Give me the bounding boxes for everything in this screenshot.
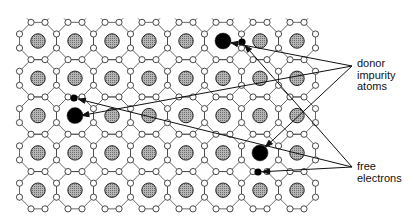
valence-electron-icon [79, 19, 85, 25]
valence-electron-icon [312, 82, 318, 88]
valence-electron-icon [16, 106, 22, 112]
host-atom-icon [290, 183, 304, 197]
valence-electron-icon [287, 131, 293, 137]
valence-electron-icon [116, 206, 122, 212]
valence-electron-icon [42, 19, 48, 25]
valence-electron-icon [139, 94, 145, 100]
valence-electron-icon [250, 94, 256, 100]
valence-electron-icon [238, 68, 244, 74]
valence-electron-icon [301, 206, 307, 212]
valence-electron-icon [116, 94, 122, 100]
valence-electron-icon [201, 31, 207, 37]
valence-electron-icon [16, 143, 22, 149]
valence-electron-icon [190, 57, 196, 63]
valence-electron-icon [127, 45, 133, 51]
valence-electron-icon [79, 131, 85, 137]
valence-electron-icon [164, 180, 170, 186]
valence-electron-icon [90, 68, 96, 74]
valence-electron-icon [275, 45, 281, 51]
valence-electron-icon [250, 206, 256, 212]
valence-electron-icon [53, 120, 59, 126]
valence-electron-icon [164, 106, 170, 112]
valence-electron-icon [238, 120, 244, 126]
host-atom-icon [179, 108, 193, 122]
valence-electron-icon [312, 143, 318, 149]
valence-electron-icon [127, 180, 133, 186]
valence-electron-icon [312, 106, 318, 112]
valence-electron-icon [238, 45, 244, 51]
arrowhead-icon [78, 98, 85, 103]
host-atom-icon [68, 183, 82, 197]
valence-electron-icon [275, 194, 281, 200]
valence-electron-icon [201, 120, 207, 126]
valence-electron-icon [16, 31, 22, 37]
valence-electron-icon [201, 82, 207, 88]
host-atom-icon [31, 183, 45, 197]
valence-electron-icon [164, 68, 170, 74]
host-atom-icon [179, 146, 193, 160]
valence-electron-icon [65, 94, 71, 100]
valence-electron-icon [227, 57, 233, 63]
donor-impurity-atom-icon [215, 33, 231, 49]
valence-electron-icon [164, 45, 170, 51]
valence-electron-icon [16, 194, 22, 200]
valence-electron-icon [53, 180, 59, 186]
host-atom-icon [142, 146, 156, 160]
valence-electron-icon [90, 45, 96, 51]
valence-electron-icon [301, 19, 307, 25]
valence-electron-icon [190, 168, 196, 174]
valence-electron-icon [90, 106, 96, 112]
valence-electron-icon [227, 94, 233, 100]
valence-electron-icon [65, 206, 71, 212]
valence-electron-icon [264, 206, 270, 212]
valence-electron-icon [42, 131, 48, 137]
valence-electron-icon [116, 131, 122, 137]
valence-electron-icon [90, 120, 96, 126]
host-atom-icon [105, 71, 119, 85]
valence-electron-icon [287, 168, 293, 174]
valence-electron-icon [127, 120, 133, 126]
valence-electron-icon [213, 19, 219, 25]
valence-electron-icon [116, 168, 122, 174]
valence-electron-icon [312, 31, 318, 37]
label-line: free [357, 161, 402, 173]
valence-electron-icon [201, 180, 207, 186]
valence-electron-icon [190, 131, 196, 137]
host-atom-icon [290, 34, 304, 48]
valence-electron-icon [238, 180, 244, 186]
valence-electron-icon [238, 194, 244, 200]
valence-electron-icon [176, 206, 182, 212]
valence-electron-icon [201, 68, 207, 74]
label-line: atoms [357, 81, 396, 93]
host-atom-icon [216, 183, 230, 197]
valence-electron-icon [139, 168, 145, 174]
free-electron-icon [70, 94, 77, 101]
host-atom-icon [253, 34, 267, 48]
valence-electron-icon [42, 206, 48, 212]
valence-electron-icon [164, 143, 170, 149]
valence-electron-icon [53, 68, 59, 74]
host-atom-icon [216, 146, 230, 160]
valence-electron-icon [90, 180, 96, 186]
valence-electron-icon [102, 168, 108, 174]
valence-electron-icon [287, 57, 293, 63]
valence-electron-icon [28, 57, 34, 63]
valence-electron-icon [201, 143, 207, 149]
host-atom-icon [179, 34, 193, 48]
label-line: donor [357, 58, 396, 70]
valence-electron-icon [164, 31, 170, 37]
valence-electron-icon [264, 131, 270, 137]
valence-electron-icon [213, 206, 219, 212]
valence-electron-icon [16, 180, 22, 186]
valence-electron-icon [42, 94, 48, 100]
valence-electron-icon [53, 194, 59, 200]
valence-electron-icon [79, 206, 85, 212]
valence-electron-icon [312, 180, 318, 186]
crystal-lattice [0, 0, 413, 224]
valence-electron-icon [102, 131, 108, 137]
valence-electron-icon [53, 82, 59, 88]
valence-electron-icon [139, 206, 145, 212]
host-atom-icon [31, 34, 45, 48]
host-atom-icon [31, 146, 45, 160]
valence-electron-icon [53, 106, 59, 112]
